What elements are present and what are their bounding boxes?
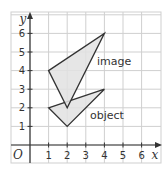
y-tick-label: 6 bbox=[19, 28, 25, 39]
y-tick-label: 4 bbox=[19, 65, 25, 76]
y-axis-label: y bbox=[19, 12, 27, 26]
x-tick-label: 2 bbox=[64, 150, 70, 161]
y-tick-label: 3 bbox=[19, 84, 25, 95]
x-tick-label: 1 bbox=[45, 150, 51, 161]
y-axis-arrow-icon bbox=[27, 12, 33, 19]
object-label: object bbox=[90, 109, 125, 122]
x-tick-label: 4 bbox=[101, 150, 107, 161]
grid-lines bbox=[11, 12, 161, 163]
axes bbox=[11, 12, 162, 163]
y-tick-label: 1 bbox=[19, 121, 25, 132]
x-tick-label: 3 bbox=[83, 150, 89, 161]
image-label: image bbox=[97, 55, 131, 68]
x-tick-label: 5 bbox=[120, 150, 126, 161]
x-tick-label: 6 bbox=[138, 150, 144, 161]
x-axis-label: x bbox=[152, 148, 159, 162]
y-tick-label: 2 bbox=[19, 102, 25, 113]
origin-label: O bbox=[13, 148, 23, 162]
coordinate-grid-diagram: 123456123456Oyximageobject bbox=[0, 0, 167, 173]
y-tick-label: 5 bbox=[19, 47, 25, 58]
